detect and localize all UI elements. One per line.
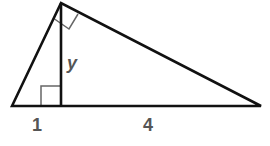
triangle-outline [12, 3, 261, 106]
label-right-segment: 4 [143, 115, 153, 135]
right-angle-mark-top [55, 14, 79, 29]
label-altitude: y [66, 53, 78, 73]
label-left-segment: 1 [32, 115, 42, 135]
right-angle-mark-bottom [41, 86, 61, 106]
triangle-diagram: 1 y 4 [0, 0, 270, 146]
